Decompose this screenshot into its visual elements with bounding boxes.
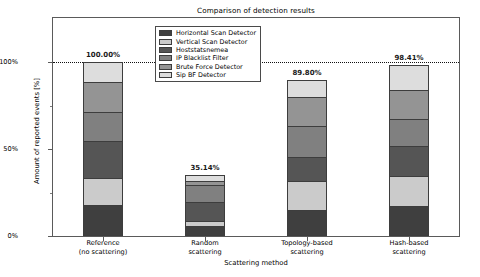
bar-segment	[390, 147, 428, 177]
bar-segment	[390, 120, 428, 146]
chart-figure: Comparison of detection results Amount o…	[0, 0, 480, 277]
bar-segment	[186, 203, 224, 222]
bar-segment	[84, 113, 122, 142]
legend-swatch-icon	[159, 72, 172, 78]
stacked-bar	[287, 80, 327, 236]
bar-segment	[186, 186, 224, 203]
legend-item: Horizontal Scan Detector	[159, 29, 256, 37]
y-tick-label: 50%	[0, 145, 18, 153]
bar-segment	[390, 66, 428, 91]
bar-segment	[84, 179, 122, 207]
bar-segment	[288, 98, 326, 127]
bar-segment	[84, 83, 122, 113]
legend-item-label: Sip BF Detector	[176, 71, 226, 79]
y-minor-tick	[50, 193, 52, 194]
x-axis-label: Scattering method	[52, 259, 460, 267]
bar-segment	[84, 63, 122, 83]
legend-item: Vertical Scan Detector	[159, 37, 256, 45]
legend-item: Hoststatsnemea	[159, 46, 256, 54]
bar-segment	[84, 142, 122, 179]
legend-item-label: Hoststatsnemea	[176, 46, 228, 54]
bar-value-label: 100.00%	[58, 51, 148, 59]
stacked-bar	[389, 65, 429, 236]
stacked-bar	[83, 62, 123, 236]
legend-item-label: Vertical Scan Detector	[176, 38, 247, 46]
bar-value-label: 98.41%	[364, 54, 454, 62]
x-tick-mark	[307, 237, 308, 241]
legend-item-label: Horizontal Scan Detector	[176, 29, 256, 37]
bar-value-label: 89.80%	[262, 69, 352, 77]
bar-segment	[84, 206, 122, 235]
legend-swatch-icon	[159, 55, 172, 61]
bar-segment	[390, 207, 428, 235]
y-tick-mark	[48, 236, 52, 237]
x-tick-mark	[409, 237, 410, 241]
y-tick-label: 0%	[0, 232, 18, 240]
x-tick-label: Hash-basedscattering	[349, 239, 469, 257]
y-minor-tick	[50, 106, 52, 107]
chart-title: Comparison of detection results	[52, 6, 460, 15]
legend-swatch-icon	[159, 47, 172, 53]
stacked-bar	[185, 175, 225, 236]
bar-segment	[186, 227, 224, 235]
bar-segment	[288, 182, 326, 211]
legend-item-label: IP Blacklist Filter	[176, 54, 228, 62]
x-tick-mark	[205, 237, 206, 241]
x-tick-mark	[103, 237, 104, 241]
legend-swatch-icon	[159, 30, 172, 36]
legend-item-label: Brute Force Detector	[176, 63, 243, 71]
legend-swatch-icon	[159, 39, 172, 45]
legend-swatch-icon	[159, 64, 172, 70]
chart-legend: Horizontal Scan DetectorVertical Scan De…	[155, 26, 261, 82]
bar-segment	[288, 127, 326, 158]
legend-item: Brute Force Detector	[159, 63, 256, 71]
bar-segment	[390, 91, 428, 120]
bar-segment	[288, 81, 326, 99]
bar-segment	[288, 158, 326, 182]
y-tick-mark	[48, 149, 52, 150]
y-tick-label: 100%	[0, 58, 18, 66]
bar-segment	[390, 177, 428, 207]
legend-item: IP Blacklist Filter	[159, 54, 256, 62]
legend-item: Sip BF Detector	[159, 71, 256, 79]
bar-segment	[288, 211, 326, 235]
y-tick-mark	[48, 62, 52, 63]
bar-value-label: 35.14%	[160, 164, 250, 172]
y-axis-label: Amount of reported events [%]	[33, 36, 41, 226]
